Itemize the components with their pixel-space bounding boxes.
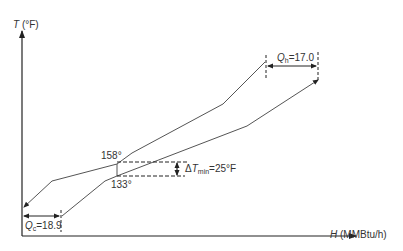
y-axis-unit: (°F) xyxy=(22,19,39,30)
x-axis-label: H (MMBtu/h) xyxy=(330,230,387,240)
qc-symbol: Q xyxy=(25,220,33,231)
composite-curve-diagram xyxy=(0,0,403,251)
pinch-hot-temp: 158° xyxy=(101,151,122,161)
qh-value: =17.0 xyxy=(289,52,314,63)
hot-composite-curve xyxy=(24,62,265,207)
y-axis-label: T (°F) xyxy=(13,20,39,30)
x-axis-unit: (MMBtu/h) xyxy=(340,229,387,240)
qc-value: =18.9 xyxy=(36,220,61,231)
delta-symbol: Δ xyxy=(185,163,192,174)
cold-composite-curve xyxy=(62,80,318,216)
qh-symbol: Q xyxy=(277,52,285,63)
pinch-cold-temp: 133° xyxy=(111,180,132,190)
delta-t-subscript: min xyxy=(198,168,209,175)
qc-label: Qc=18.9 xyxy=(25,221,62,232)
y-axis-symbol: T xyxy=(13,19,19,30)
delta-t-value: =25°F xyxy=(209,163,236,174)
x-axis-symbol: H xyxy=(330,229,337,240)
delta-t-min-label: ΔTmin=25°F xyxy=(185,164,236,175)
qh-label: Qh=17.0 xyxy=(277,53,314,64)
